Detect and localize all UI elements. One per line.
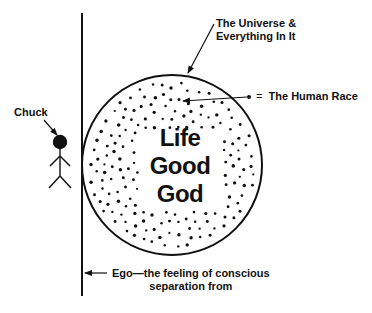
human-dot [220,101,223,104]
human-dot [126,230,129,233]
human-dot [133,234,136,237]
human-dot [143,238,146,241]
stick-figure-left-arm [50,156,60,166]
human-dot [250,155,253,158]
chuck-stick-figure [49,136,71,189]
human-dot [185,243,188,246]
human-dot [120,213,122,215]
human-dot [142,219,146,223]
human-dot [114,142,117,145]
human-dot [112,150,115,153]
human-dot [227,108,230,111]
human-dot [134,224,138,228]
human-dot [150,103,153,106]
human-dot [153,111,156,114]
human-dot [232,216,235,219]
human-dot [206,220,209,223]
circle-label-good: Good [120,152,240,180]
human-dot [104,119,107,122]
human-dot [180,82,183,85]
human-dot [130,118,133,121]
human-dot [248,134,251,137]
human-dot [99,200,102,203]
human-dot [124,108,127,111]
human-dot [241,194,244,197]
human-dot [168,232,170,234]
human-dot [143,96,146,99]
human-dot [96,157,99,160]
circle-label-life: Life [120,124,240,152]
human-dot [154,96,158,100]
human-dot [144,117,147,120]
human-dot [145,229,147,231]
human-dot [198,91,201,94]
human-dot [95,170,97,172]
human-dot [214,212,217,215]
human-dot [223,215,226,218]
human-dot [139,88,142,91]
human-dot [251,184,254,187]
human-dot [132,109,135,112]
human-dot [101,179,104,182]
human-race-legend-dot [247,95,251,99]
ego-label-line-2: separation from [112,280,270,293]
human-dot [114,110,116,112]
human-dot [208,92,211,95]
human-dot [186,89,189,92]
human-dot [185,218,188,221]
human-dot [194,220,196,222]
human-dot [158,236,162,240]
human-dot [106,154,109,157]
human-dot [170,118,173,121]
human-dot [200,114,202,116]
human-dot [250,165,253,168]
human-dot [164,105,167,108]
human-dot [122,116,125,119]
human-dot [189,236,192,239]
human-dot [118,101,121,104]
human-dot [193,211,196,214]
human-dot [160,222,163,225]
circle-label: Life Good God [120,124,240,208]
human-dot [215,113,218,116]
human-dot [177,98,180,101]
human-dot [93,149,96,152]
human-dot [110,134,113,137]
human-dot [252,173,254,175]
human-dot [177,221,179,223]
human-dot [110,178,112,180]
human-race-legend: = The Human Race [256,90,358,103]
human-dot [95,139,98,142]
human-dot [174,110,176,112]
human-race-equals: = [256,90,262,102]
human-dot [106,145,109,148]
human-dot [161,83,164,86]
human-dot [209,234,212,237]
human-dot [108,193,111,196]
human-dot [140,105,143,108]
human-dot [150,213,153,216]
human-dot [242,168,245,171]
human-dot [89,163,92,166]
human-dot [212,100,215,103]
stick-figure-right-leg [60,176,71,188]
chuck-label: Chuck [14,106,48,119]
human-dot [165,211,168,214]
human-dot [162,118,164,120]
human-dot [111,211,113,213]
human-dot [198,227,200,229]
human-dot [150,240,153,243]
human-dot [152,83,154,85]
human-dot [89,181,93,185]
human-dot [213,227,215,229]
human-dot [239,210,242,213]
stick-figure-right-arm [60,156,70,166]
human-dot [133,212,136,215]
ego-label: Ego—the feeling of conscious separation … [112,267,270,293]
human-dot [222,224,225,227]
human-dot [99,130,102,133]
human-dot [114,220,117,223]
human-dot [116,191,119,194]
human-dot [182,114,185,117]
human-dot [169,86,172,89]
